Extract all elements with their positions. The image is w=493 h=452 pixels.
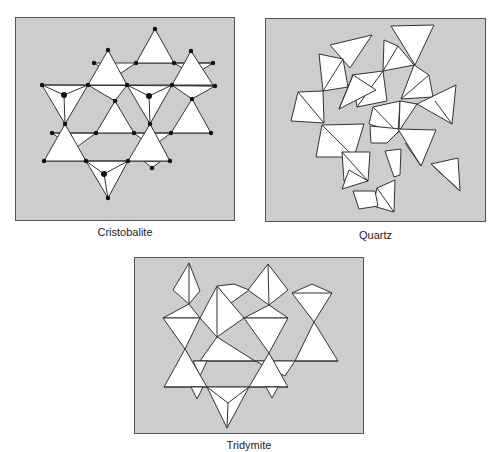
- cristobalite-structure-diagram: [16, 18, 236, 222]
- tridymite-caption: Tridymite: [134, 439, 364, 451]
- cristobalite-panel: [15, 17, 235, 221]
- cristobalite-caption: Cristobalite: [15, 226, 235, 238]
- tridymite-panel: [134, 257, 364, 434]
- quartz-structure-diagram: [266, 19, 487, 223]
- quartz-panel: [265, 18, 486, 222]
- tridymite-structure-diagram: [135, 258, 365, 435]
- quartz-caption: Quartz: [265, 229, 486, 241]
